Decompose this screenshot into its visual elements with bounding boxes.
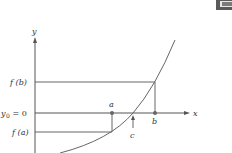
label-a: a xyxy=(109,100,114,109)
point-b xyxy=(153,111,157,115)
corner-box-icon xyxy=(216,0,232,10)
c-arrow-icon xyxy=(131,115,135,120)
y-axis-arrow-icon xyxy=(33,37,37,43)
label-f-a: f (a) xyxy=(11,128,29,137)
function-curve xyxy=(60,40,175,153)
y-axis-label: y xyxy=(31,27,37,36)
ivt-diagram: y x a b c f (b) f (a) y 0 = 0 xyxy=(0,0,232,153)
label-f-b: f (b) xyxy=(9,78,27,87)
x-axis-arrow-icon xyxy=(184,111,190,115)
label-c: c xyxy=(130,131,135,140)
x-axis-label: x xyxy=(193,109,198,118)
svg-text:= 0: = 0 xyxy=(10,109,27,118)
point-a xyxy=(110,111,114,115)
label-b: b xyxy=(152,117,157,126)
label-y0: y 0 = 0 xyxy=(0,109,27,119)
